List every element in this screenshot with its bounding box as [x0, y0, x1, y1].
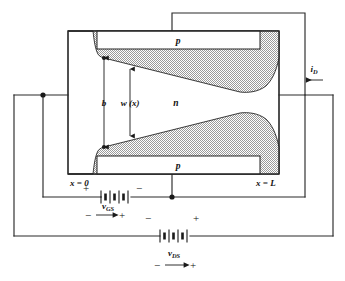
b-bottom-anchor-dot: [102, 145, 106, 149]
vds-source-label: vDS: [168, 248, 181, 259]
drain-coordinate-label: x = L: [255, 178, 276, 188]
jfet-diagram-svg: p p n b w (x) x = 0 x = L iD vGS vDS + −…: [0, 0, 345, 281]
vds-terminal-minus-sign: −: [145, 212, 151, 224]
vds-battery-symbol: [160, 230, 187, 243]
b-top-anchor-dot: [102, 56, 106, 60]
vds-arrow-minus-sign: −: [154, 259, 160, 271]
vgs-source-label: vGS: [102, 201, 115, 212]
top-p-region-label: p: [175, 36, 181, 46]
vds-arrow-plus-sign: +: [190, 259, 196, 271]
jfet-figure: p p n b w (x) x = 0 x = L iD vGS vDS + −…: [0, 0, 345, 281]
vgs-terminal-minus-sign: −: [136, 182, 142, 194]
vgs-arrow-plus-sign: +: [119, 209, 125, 221]
vgs-arrow-minus-sign: −: [85, 209, 91, 221]
vgs-terminal-plus-sign: +: [83, 182, 89, 194]
drain-current-label: iD: [310, 64, 318, 75]
wx-label: w (x): [121, 98, 140, 108]
b-label: b: [102, 98, 107, 108]
vds-terminal-plus-sign: +: [193, 212, 199, 224]
source-junction-dot: [40, 92, 45, 97]
gate-junction-dot: [169, 194, 174, 199]
n-channel-label: n: [173, 98, 178, 108]
bottom-p-region-label: p: [175, 161, 181, 171]
